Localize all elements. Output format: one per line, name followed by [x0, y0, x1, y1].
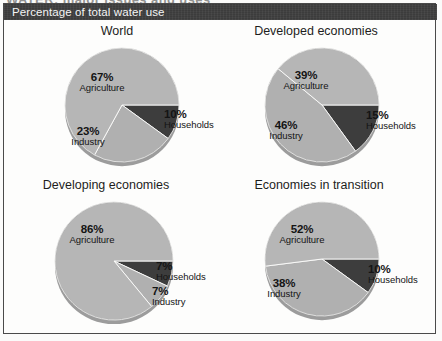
chart-developed-economies: Developed economies 39% Agriculture 46% … — [226, 24, 434, 176]
chart-developing-economies: Developing economies 86% Agriculture 7% … — [8, 178, 222, 330]
slice-label-industry: 7% Industry — [152, 286, 185, 308]
chart-title: Developing economies — [8, 178, 204, 192]
slice-label-households: 15% Households — [366, 110, 416, 132]
figure-banner: Percentage of total water use — [4, 4, 437, 20]
pie-chart-grid: World 67% Agriculture 23% Industry 10% H… — [4, 20, 435, 333]
slice-label-households: 10% Households — [368, 264, 418, 286]
slice-label-agriculture: 39% Agriculture — [260, 70, 352, 92]
chart-title: Developed economies — [226, 24, 406, 38]
chart-title: Economies in transition — [226, 178, 412, 192]
slice-label-agriculture: 86% Agriculture — [46, 224, 138, 246]
banner-title: Percentage of total water use — [12, 5, 165, 19]
slice-label-industry: 38% Industry — [244, 278, 324, 300]
pie-economies-in-transition — [258, 200, 386, 328]
pie-svg — [258, 200, 386, 328]
chart-world: World 67% Agriculture 23% Industry 10% H… — [12, 24, 222, 176]
slice-label-households: 7% Households — [156, 261, 206, 283]
chart-economies-in-transition: Economies in transition 52% Agriculture … — [226, 178, 434, 330]
chart-title: World — [12, 24, 222, 38]
slice-label-agriculture: 67% Agriculture — [56, 72, 148, 94]
water-use-figure: WATER: major issues and uses Percentage … — [0, 0, 442, 341]
slice-label-industry: 23% Industry — [48, 126, 128, 148]
slice-label-agriculture: 52% Agriculture — [256, 224, 348, 246]
figure-panel: Percentage of total water use World 67% … — [3, 3, 436, 334]
slice-label-industry: 46% Industry — [246, 120, 326, 142]
slice-label-households: 10% Households — [164, 109, 214, 131]
